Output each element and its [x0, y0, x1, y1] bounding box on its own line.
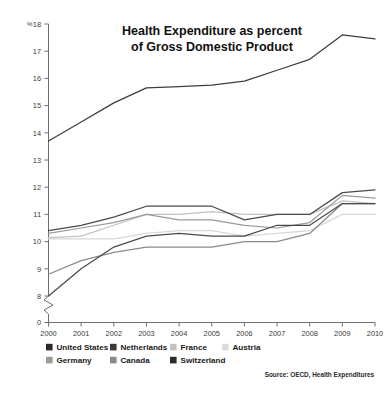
x-tick-label-2009: 2009 [334, 329, 350, 338]
chart-title-line-2: of Gross Domestic Product [131, 40, 294, 54]
axis-group [44, 24, 375, 323]
legend-swatch-france [170, 344, 177, 351]
x-tick-label-2006: 2006 [236, 329, 252, 338]
x-tick-label-2005: 2005 [204, 329, 220, 338]
y-tick-label-8: 8 [37, 292, 41, 301]
legend-label-canada: Canada [121, 356, 151, 365]
source-note: Source: OECD, Health Expenditures [265, 371, 375, 379]
y-tick-label-18: 18 [33, 20, 41, 29]
legend-swatch-germany [46, 357, 53, 364]
x-tick-label-2010: 2010 [367, 329, 383, 338]
y-tick-label-10: 10 [33, 237, 41, 246]
legend-item-united-states[interactable]: United States [46, 343, 109, 352]
y-tick-label-16: 16 [33, 74, 41, 83]
y-tick-label-9: 9 [37, 265, 41, 274]
y-tick-label-14: 14 [33, 129, 41, 138]
legend-swatch-switzerland [170, 357, 177, 364]
y-tick-label-13: 13 [33, 156, 41, 165]
legend-swatch-austria [222, 344, 229, 351]
health-expenditure-line-chart: Health Expenditure as percent of Gross D… [0, 0, 385, 399]
x-tick-label-2002: 2002 [106, 329, 122, 338]
y-tick-label-12: 12 [33, 183, 41, 192]
y-tick-label-0: 0 [37, 318, 41, 327]
legend-label-austria: Austria [233, 343, 261, 352]
legend-item-france[interactable]: France [170, 343, 208, 352]
x-tick-label-2008: 2008 [301, 329, 317, 338]
y-tick-label-15: 15 [33, 101, 41, 110]
x-tick-label-2001: 2001 [73, 329, 89, 338]
y-tick-label-17: 17 [33, 47, 41, 56]
chart-figure: Health Expenditure as percent of Gross D… [0, 0, 385, 399]
x-tick-label-2003: 2003 [138, 329, 154, 338]
legend-swatch-united-states [46, 344, 53, 351]
x-tick-label-2004: 2004 [171, 329, 187, 338]
x-tick-label-2000: 2000 [40, 329, 56, 338]
series-line-switzerland [49, 204, 376, 296]
legend-label-netherlands: Netherlands [121, 343, 168, 352]
x-tick-label-2007: 2007 [269, 329, 285, 338]
chart-legend: United StatesNetherlandsFranceAustriaGer… [46, 343, 261, 365]
legend-item-netherlands[interactable]: Netherlands [110, 343, 168, 352]
legend-item-germany[interactable]: Germany [46, 356, 92, 365]
legend-item-austria[interactable]: Austria [222, 343, 261, 352]
legend-swatch-canada [110, 357, 117, 364]
legend-label-germany: Germany [57, 356, 93, 365]
y-axis-unit-label: % [27, 20, 33, 27]
legend-item-canada[interactable]: Canada [110, 356, 150, 365]
x-axis-ticks: 2000200120022003200420052006200720082009… [40, 323, 383, 339]
series-line-netherlands [49, 190, 376, 231]
y-tick-label-11: 11 [33, 210, 41, 219]
y-axis-ticks: 089101112131415161718 [33, 20, 49, 328]
legend-label-france: France [181, 343, 208, 352]
legend-swatch-netherlands [110, 344, 117, 351]
legend-label-united-states: United States [57, 343, 109, 352]
legend-label-switzerland: Switzerland [181, 356, 226, 365]
series-layer [49, 35, 376, 296]
chart-title-line-1: Health Expenditure as percent [122, 24, 303, 38]
y-axis-break-marker [44, 296, 53, 314]
legend-item-switzerland[interactable]: Switzerland [170, 356, 226, 365]
